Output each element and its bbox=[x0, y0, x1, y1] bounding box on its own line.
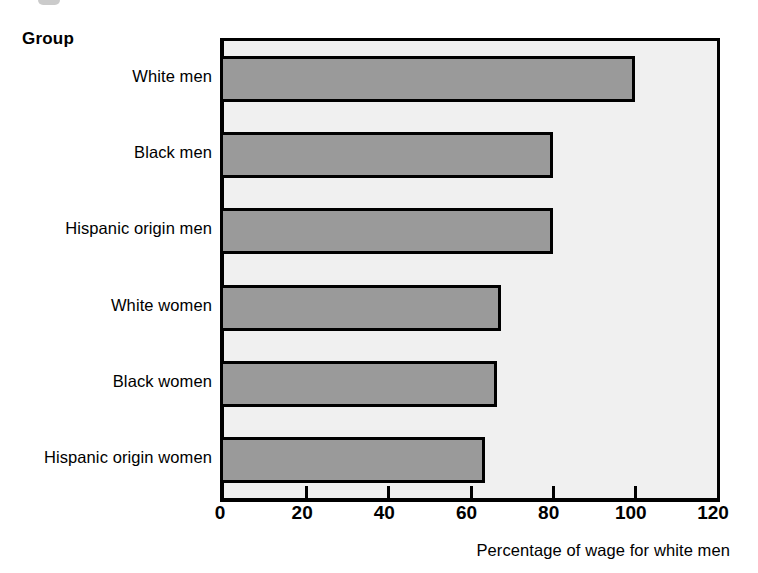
category-label: Black women bbox=[0, 371, 212, 390]
x-axis-tick-label: 60 bbox=[456, 502, 477, 524]
plot-area bbox=[220, 38, 720, 502]
cropped-caption-mark bbox=[38, 0, 60, 5]
bar bbox=[223, 285, 501, 331]
x-axis-tick-label: 120 bbox=[697, 502, 729, 524]
bar bbox=[223, 56, 635, 102]
x-axis-tick bbox=[305, 486, 308, 498]
x-axis-tick bbox=[387, 486, 390, 498]
category-label: Hispanic origin women bbox=[0, 447, 212, 466]
x-axis-tick bbox=[552, 486, 555, 498]
x-axis-tick-label: 0 bbox=[215, 502, 226, 524]
bar bbox=[223, 361, 497, 407]
x-axis-tick-label: 100 bbox=[615, 502, 647, 524]
category-label: Black men bbox=[0, 143, 212, 162]
x-axis-tick-label: 20 bbox=[292, 502, 313, 524]
figure-container: Group 020406080100120 White menBlack men… bbox=[0, 0, 758, 573]
bars-layer bbox=[224, 41, 717, 498]
x-axis-tick bbox=[470, 486, 473, 498]
category-label: Hispanic origin men bbox=[0, 219, 212, 238]
x-axis-label: Percentage of wage for white men bbox=[476, 541, 730, 560]
bar bbox=[223, 132, 553, 178]
x-axis-tick-label: 40 bbox=[374, 502, 395, 524]
bar bbox=[223, 208, 553, 254]
y-axis-title: Group bbox=[22, 29, 74, 49]
x-axis-tick-label: 80 bbox=[538, 502, 559, 524]
category-label: White men bbox=[0, 67, 212, 86]
bar bbox=[223, 437, 485, 483]
x-axis-tick bbox=[634, 486, 637, 498]
category-label: White women bbox=[0, 295, 212, 314]
